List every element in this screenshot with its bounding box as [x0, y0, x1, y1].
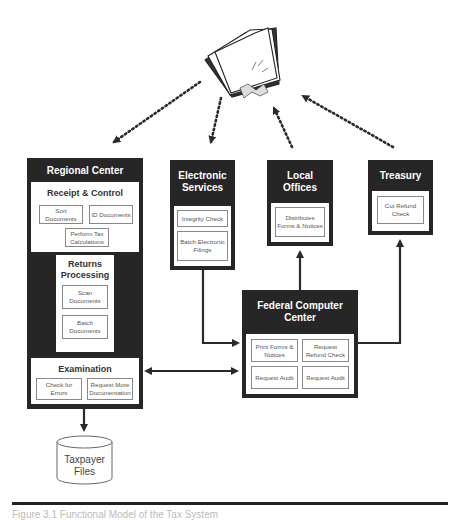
dotted-arrow-from-local-offices [274, 108, 292, 147]
fcc-title-2: Center [242, 312, 358, 324]
taxpayer-files-label: Taxpayer Files [57, 454, 112, 478]
receipt-control-panel: Receipt & Control Sort Documents ID Docu… [31, 182, 139, 252]
regional-center-box: Regional Center Receipt & Control Sort D… [27, 158, 143, 409]
treasury-title: Treasury [368, 160, 433, 182]
dotted-arrow-from-treasury [303, 96, 393, 147]
sort-documents-step: Sort Documents [39, 205, 83, 224]
perform-tax-calculations-step: Perform Tax Calculations [65, 228, 109, 247]
local-offices-title-1: Local [267, 160, 333, 182]
check-for-errors-step: Check for Errors [36, 378, 82, 400]
returns-processing-panel: Returns Processing Scan Documents Batch … [56, 255, 114, 352]
tax-papers-bundle-icon [205, 28, 280, 98]
batch-electronic-filings-step: Batch Electronic Filings [177, 231, 228, 261]
batch-documents-step: Batch Documents [62, 315, 108, 339]
arrow-electronic-to-fcc [203, 270, 238, 343]
request-audit-step-2: Request Audit [302, 366, 349, 389]
cut-refund-check-step: Cut Refund Check [377, 196, 424, 224]
taxpayer-files-line2: Files [57, 466, 112, 478]
dotted-arrow-to-electronic-services [211, 98, 221, 142]
electronic-services-panel: Integrity Check Batch Electronic Filings [174, 206, 231, 266]
returns-processing-title-2: Processing [56, 270, 114, 281]
taxpayer-files-line1: Taxpayer [57, 454, 112, 466]
fcc-panel: Print Forms & Notices Request Refund Che… [246, 334, 354, 394]
request-audit-step-1: Request Audit [251, 366, 298, 389]
figure-caption: Figure 3.1 Functional Model of the Tax S… [12, 509, 218, 520]
local-offices-title-2: Offices [267, 182, 333, 194]
distributes-forms-notices-step: Distributes Forms & Notices [275, 207, 325, 237]
integrity-check-step: Integrity Check [177, 210, 228, 227]
local-offices-panel: Distributes Forms & Notices [271, 203, 329, 242]
federal-computer-center-box: Federal Computer Center Print Forms & No… [242, 290, 358, 398]
scan-documents-step: Scan Documents [62, 285, 108, 309]
fcc-title-1: Federal Computer [242, 290, 358, 312]
receipt-control-title: Receipt & Control [31, 182, 139, 199]
electronic-services-box: Electronic Services Integrity Check Batc… [170, 160, 235, 270]
print-forms-notices-step: Print Forms & Notices [251, 339, 298, 362]
regional-center-title: Regional Center [27, 158, 143, 177]
examination-title: Examination [31, 358, 139, 375]
arrow-fcc-to-treasury [358, 241, 400, 343]
treasury-panel: Cut Refund Check [372, 191, 429, 231]
caption-rule [12, 502, 448, 505]
returns-processing-title-1: Returns [56, 255, 114, 270]
id-documents-step: ID Documents [89, 205, 133, 224]
electronic-services-title-2: Services [170, 182, 235, 194]
electronic-services-title-1: Electronic [170, 160, 235, 182]
examination-panel: Examination Check for Errors Request Mor… [31, 358, 139, 404]
request-refund-check-step: Request Refund Check [302, 339, 349, 362]
dotted-arrow-to-regional-center [114, 82, 200, 142]
local-offices-box: Local Offices Distributes Forms & Notice… [267, 160, 333, 246]
request-more-documentation-step: Request More Documentation [87, 378, 133, 400]
treasury-box: Treasury Cut Refund Check [368, 160, 433, 235]
